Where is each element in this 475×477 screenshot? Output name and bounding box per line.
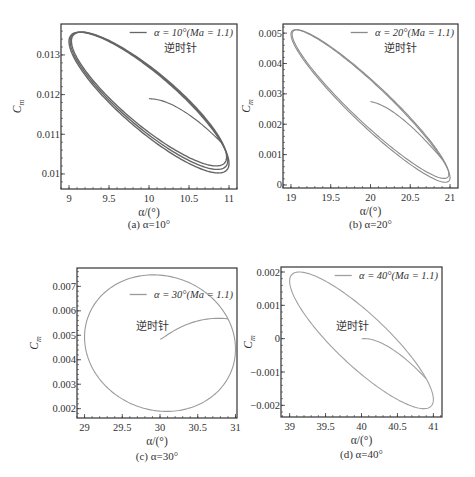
y-tick-label: 0.001 [256, 300, 280, 311]
direction-annotation: 逆时针 [164, 41, 197, 55]
y-tick-label: 0.005 [258, 28, 282, 39]
y-tick-label: 0.002 [256, 267, 280, 278]
y-tick-label: 0.01 [42, 168, 60, 179]
x-tick-label: 30 [155, 422, 166, 433]
x-tick-label: 10 [144, 193, 155, 204]
transient-curve [160, 318, 228, 339]
data-series [290, 272, 434, 409]
plot-frame [283, 24, 458, 188]
hysteresis-loop [291, 30, 450, 182]
x-tick-label: 19 [286, 192, 297, 203]
y-tick-label: 0 [275, 333, 280, 344]
hysteresis-loop [292, 30, 449, 179]
legend-label: α = 30°(Ma = 1.1) [154, 289, 233, 301]
subplot-a: 99.51010.5110.010.0110.0120.013α/(°)Cmα … [11, 24, 237, 231]
legend-label: α = 20°(Ma = 1.1) [375, 27, 454, 39]
x-tick-label: 41 [428, 421, 439, 432]
x-tick-label: 40.5 [388, 421, 406, 432]
y-tick-label: −0.001 [250, 367, 280, 378]
x-tick-label: 10.5 [180, 193, 198, 204]
x-tick-label: 30.5 [189, 422, 207, 433]
direction-annotation: 逆时针 [384, 41, 417, 55]
data-series [291, 30, 450, 182]
figure-canvas: 99.51010.5110.010.0110.0120.013α/(°)Cmα … [0, 0, 475, 477]
subplot-caption: (a) α=10° [128, 218, 170, 231]
x-tick-label: 39 [284, 421, 295, 432]
plot-frame [281, 267, 442, 417]
transient-curve [149, 99, 221, 142]
subplot-d: 3939.54040.541−0.002−0.00100.0010.002α/(… [242, 267, 442, 462]
subplot-caption: (d) α=40° [340, 448, 383, 461]
y-tick-label: 0.012 [36, 89, 60, 100]
x-tick-label: 39.5 [316, 421, 334, 432]
subplot-c: 2929.53030.5310.0020.0030.0040.0050.0060… [28, 268, 241, 463]
x-tick-label: 40 [356, 421, 367, 432]
transient-curve [362, 339, 427, 379]
y-axis-label: Cm [240, 99, 255, 113]
x-axis: 1919.52020.521 [283, 184, 455, 203]
legend: α = 20°(Ma = 1.1) [351, 27, 455, 39]
x-tick-label: 29 [79, 422, 90, 433]
subplot-caption: (b) α=20° [349, 218, 392, 231]
y-axis-label: Cm [242, 335, 257, 349]
y-tick-label: 0.004 [52, 354, 76, 365]
y-tick-label: 0.003 [258, 88, 282, 99]
x-tick-label: 20 [365, 192, 376, 203]
y-axis-label: Cm [11, 100, 26, 114]
x-axis-label: α/(°) [351, 434, 373, 447]
subplot-caption: (c) α=30° [136, 450, 178, 463]
y-tick-label: 0.006 [52, 305, 76, 316]
y-tick-label: 0.003 [52, 379, 76, 390]
y-tick-label: 0.007 [52, 281, 76, 292]
hysteresis-loop [290, 272, 434, 409]
legend: α = 30°(Ma = 1.1) [130, 289, 234, 301]
subplot-b: 1919.52020.52100.0010.0020.0030.0040.005… [240, 24, 458, 231]
y-tick-label: 0.002 [52, 403, 76, 414]
y-tick-label: 0.002 [258, 119, 282, 130]
legend: α = 10°(Ma = 1.1) [130, 27, 234, 39]
y-tick-label: 0.005 [52, 330, 76, 341]
x-tick-label: 31 [230, 422, 241, 433]
y-tick-label: 0.011 [37, 129, 60, 140]
transient-curve [371, 101, 443, 159]
x-tick-label: 9 [66, 193, 71, 204]
x-tick-label: 11 [224, 193, 234, 204]
hysteresis-loop [69, 32, 229, 173]
x-axis: 3939.54040.541 [282, 413, 440, 432]
y-axis-label: Cm [28, 336, 43, 350]
direction-annotation: 逆时针 [136, 319, 169, 333]
x-tick-label: 20.5 [401, 192, 419, 203]
x-tick-label: 29.5 [113, 422, 131, 433]
y-tick-label: 0.004 [258, 58, 282, 69]
x-tick-label: 9.5 [102, 193, 115, 204]
y-tick-label: −0.002 [250, 400, 280, 411]
legend-label: α = 40°(Ma = 1.1) [359, 270, 438, 282]
y-tick-label: 0.001 [258, 149, 282, 160]
x-tick-label: 21 [445, 192, 456, 203]
plot-frame [61, 24, 237, 189]
x-axis: 2929.53030.531 [77, 414, 241, 433]
hysteresis-loop [70, 32, 228, 169]
legend: α = 40°(Ma = 1.1) [335, 270, 439, 282]
x-axis-label: α/(°) [360, 205, 382, 218]
x-axis-label: α/(°) [146, 435, 168, 448]
legend-label: α = 10°(Ma = 1.1) [154, 27, 233, 39]
direction-annotation: 逆时针 [336, 319, 369, 333]
y-tick-label: 0.013 [36, 49, 60, 60]
x-axis: 99.51010.511 [61, 185, 237, 204]
y-tick-label: 0 [277, 179, 282, 190]
data-series [69, 32, 229, 173]
x-tick-label: 19.5 [322, 192, 340, 203]
